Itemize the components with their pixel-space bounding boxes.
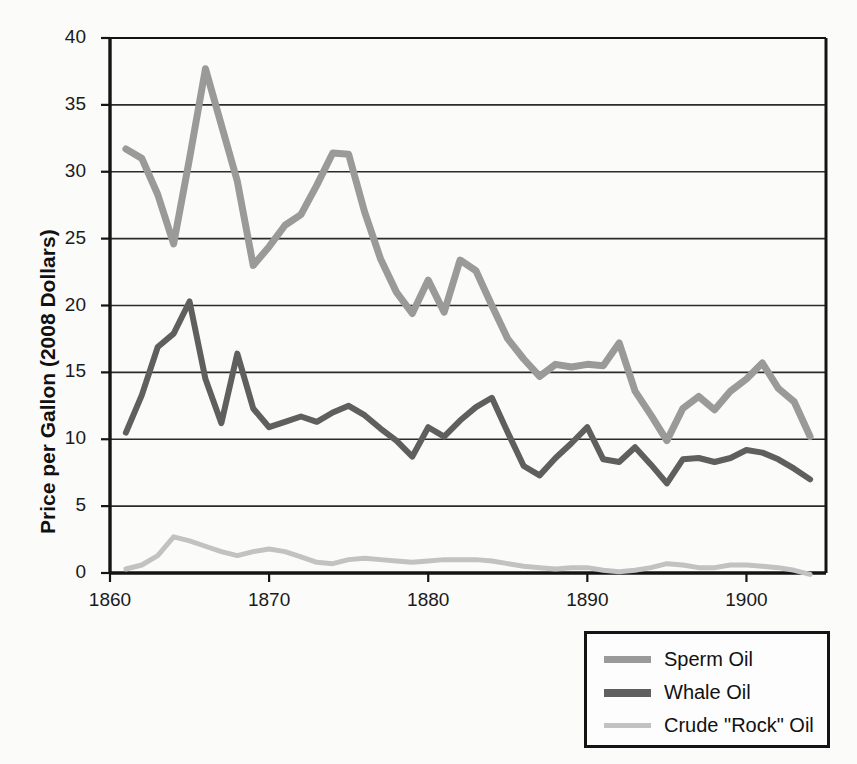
- y-tick-label: 15: [44, 360, 86, 382]
- x-tick-label: 1880: [393, 589, 463, 611]
- legend-item-sperm-oil[interactable]: Sperm Oil: [587, 643, 827, 676]
- legend-label-sperm-oil: Sperm Oil: [664, 648, 753, 671]
- legend-item-crude-rock-oil[interactable]: Crude "Rock" Oil: [587, 709, 827, 742]
- legend-swatch-sperm-oil: [604, 656, 651, 663]
- chart-legend: Sperm Oil Whale Oil Crude "Rock" Oil: [584, 631, 830, 748]
- y-tick-label: 5: [44, 494, 86, 516]
- legend-swatch-whale-oil: [604, 689, 651, 697]
- y-tick-label: 30: [44, 160, 86, 182]
- x-tick-label: 1870: [234, 589, 304, 611]
- y-tick-label: 20: [44, 294, 86, 316]
- y-tick-label: 10: [44, 427, 86, 449]
- y-tick-label: 0: [44, 561, 86, 583]
- data-series-layer: [126, 69, 810, 575]
- legend-label-whale-oil: Whale Oil: [664, 681, 751, 704]
- y-tick-label: 40: [44, 26, 86, 48]
- x-tick-label: 1860: [75, 589, 145, 611]
- chart-figure: Price per Gallon (2008 Dollars) 05101520…: [0, 0, 857, 764]
- y-tick-label: 25: [44, 227, 86, 249]
- y-tick-label: 35: [44, 93, 86, 115]
- legend-item-whale-oil[interactable]: Whale Oil: [587, 676, 827, 709]
- legend-label-crude-rock-oil: Crude "Rock" Oil: [664, 714, 814, 737]
- legend-swatch-crude-rock-oil: [604, 723, 651, 728]
- series-line: [126, 301, 810, 483]
- x-tick-label: 1890: [552, 589, 622, 611]
- series-line: [126, 537, 810, 574]
- x-tick-label: 1900: [711, 589, 781, 611]
